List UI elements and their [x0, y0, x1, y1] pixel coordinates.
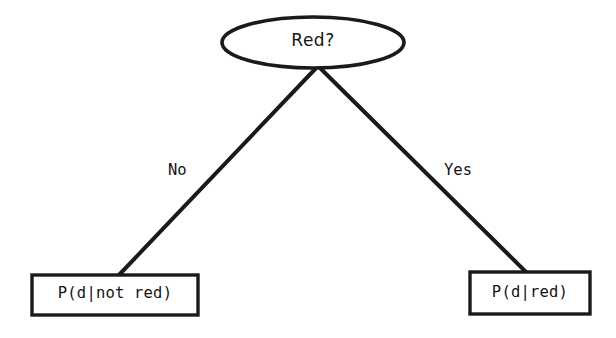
decision-tree-diagram: Red? No Yes P(d|not red) P(d|red)	[0, 0, 616, 338]
root-node-label: Red?	[222, 30, 404, 50]
edge-yes-line	[318, 66, 526, 272]
edge-no-line	[118, 66, 318, 276]
leaf-node-right-label: P(d|red)	[470, 283, 590, 301]
edge-label-yes: Yes	[444, 161, 472, 179]
edge-label-no: No	[168, 161, 187, 179]
leaf-node-left-label: P(d|not red)	[32, 284, 198, 302]
